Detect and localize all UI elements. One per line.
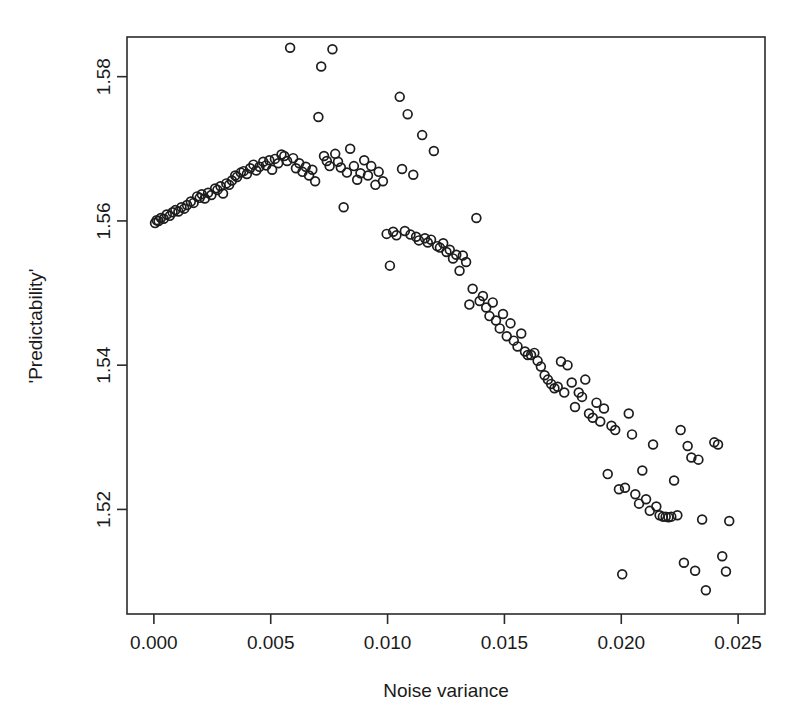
data-point <box>628 430 637 439</box>
data-point <box>418 131 427 140</box>
data-point-series <box>151 43 734 594</box>
data-point <box>398 165 407 174</box>
data-point <box>346 144 355 153</box>
data-point <box>286 43 295 52</box>
data-point <box>350 162 359 171</box>
data-point <box>676 426 685 435</box>
x-tick-label: 0.010 <box>364 632 412 653</box>
data-point <box>642 495 651 504</box>
data-point <box>567 378 576 387</box>
data-point <box>465 300 474 309</box>
x-tick-label: 0.025 <box>714 632 762 653</box>
x-axis-title: Noise variance <box>383 680 509 701</box>
data-point <box>429 147 438 156</box>
data-point <box>339 203 348 212</box>
y-tick-label: 1.58 <box>93 58 114 95</box>
x-tick-label: 0.005 <box>247 632 295 653</box>
data-point <box>718 552 727 561</box>
plot-frame <box>127 37 765 614</box>
data-point <box>488 298 497 307</box>
y-axis-title: 'Predictability' <box>25 269 46 384</box>
data-point <box>691 566 700 575</box>
data-point <box>698 515 707 524</box>
x-tick-label: 0.020 <box>598 632 646 653</box>
data-point <box>317 62 326 71</box>
y-axis-tick-labels: 1.521.541.561.58 <box>93 58 114 528</box>
data-point <box>395 92 404 101</box>
data-point <box>649 440 658 449</box>
data-point <box>680 558 689 567</box>
y-tick-label: 1.54 <box>93 346 114 383</box>
data-point <box>603 470 612 479</box>
data-point <box>328 45 337 54</box>
data-point <box>600 404 609 413</box>
data-point <box>403 110 412 119</box>
data-point <box>311 177 320 186</box>
data-point <box>409 170 418 179</box>
x-tick-label: 0.015 <box>481 632 529 653</box>
y-axis-ticks <box>117 77 127 510</box>
data-point <box>722 567 731 576</box>
x-tick-label: 0.000 <box>130 632 178 653</box>
data-point <box>379 177 388 186</box>
data-point <box>386 261 395 270</box>
data-point <box>596 417 605 426</box>
data-point <box>615 485 624 494</box>
data-point <box>571 403 580 412</box>
data-point <box>683 442 692 451</box>
data-point <box>495 324 504 333</box>
data-point <box>472 214 481 223</box>
scatter-plot-figure: 0.0000.0050.0100.0150.0200.025 1.521.541… <box>0 0 806 728</box>
data-point <box>374 167 383 176</box>
data-point <box>618 570 627 579</box>
data-point <box>581 375 590 384</box>
data-point <box>701 586 710 595</box>
data-point <box>670 476 679 485</box>
data-point <box>621 483 630 492</box>
data-point <box>468 284 477 293</box>
data-point <box>506 319 515 328</box>
y-tick-label: 1.52 <box>93 491 114 528</box>
data-point <box>673 511 682 520</box>
y-tick-label: 1.56 <box>93 202 114 239</box>
data-point <box>624 409 633 418</box>
data-point <box>314 113 323 122</box>
data-point <box>499 310 508 319</box>
data-point <box>652 502 661 511</box>
data-point <box>725 517 734 526</box>
data-point <box>631 490 640 499</box>
data-point <box>517 329 526 338</box>
data-point <box>638 466 647 475</box>
x-axis-tick-labels: 0.0000.0050.0100.0150.0200.025 <box>130 632 762 653</box>
data-point <box>455 266 464 275</box>
data-point <box>560 388 569 397</box>
x-axis-ticks <box>154 614 738 624</box>
plot-canvas: 0.0000.0050.0100.0150.0200.025 1.521.541… <box>0 0 806 728</box>
